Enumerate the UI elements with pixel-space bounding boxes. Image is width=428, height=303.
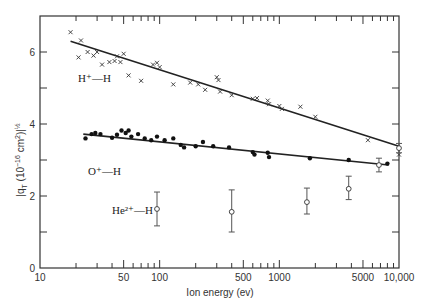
dot-marker [83,136,87,140]
x-tick-label: 500 [235,272,252,283]
dot-marker [227,145,231,149]
x-marker [218,90,222,94]
x-marker [95,50,99,54]
dot-marker [136,132,140,136]
dot-marker [126,128,130,132]
dot-marker [162,138,166,142]
x-marker [158,65,162,69]
x-marker [69,30,73,34]
dot-marker [182,145,186,149]
dot-marker [201,140,205,144]
x-marker [196,82,200,86]
x-marker [118,60,122,64]
open-circle-marker [155,207,160,212]
x-marker [100,63,104,67]
open-circle-marker [346,186,351,191]
x-tick-label: 1000 [268,272,291,283]
dot-marker [89,132,93,136]
x-marker [366,138,370,142]
open-circle-marker [397,146,402,151]
dot-marker [266,151,270,155]
x-axis-title: Ion energy (ev) [186,287,253,298]
dot-marker [149,138,153,142]
x-marker [122,52,126,56]
x-marker [79,38,83,42]
y-tick-label: 4 [29,119,35,130]
dot-marker [347,158,351,162]
x-tick-label: 10 [34,272,46,283]
dot-marker [98,132,102,136]
dot-marker [155,134,159,138]
fit-lines [71,41,399,165]
series-label-o: O⁺—H [88,165,121,177]
x-marker [230,93,234,97]
x-marker [86,50,90,54]
x-marker [203,88,207,92]
x-tick-label: 5000 [352,272,375,283]
open-circle-marker [377,163,382,168]
dot-marker [267,155,271,159]
x-marker [92,54,96,58]
axes-box [40,16,399,268]
x-marker [113,59,117,63]
x-marker [171,82,175,86]
dot-marker [119,128,123,132]
x-axis-ticks: 10501005001000500010,000 [34,16,414,283]
x-marker [151,63,155,67]
x-marker [139,79,143,83]
y-tick-label: 0 [29,263,35,274]
open-circle-marker [229,209,234,214]
x-tick-label: 50 [118,272,130,283]
open-circle-marker [305,200,310,205]
dot-marker [129,134,133,138]
x-marker [155,61,159,65]
chart: 10501005001000500010,000 0246 H⁺—H O⁺—H … [0,0,428,303]
series-label-he: He²⁺—H [112,204,153,216]
svg-text:|qT (10−16 cm2)|½: |qT (10−16 cm2)|½ [14,123,28,197]
plot-frame [40,16,399,268]
x-marker [107,60,111,64]
y-tick-label: 6 [29,47,35,58]
y-axis-title: |qT (10−16 cm2)|½ [14,123,28,197]
x-tick-label: 10,000 [384,272,415,283]
dot-marker [115,133,119,137]
x-marker [127,73,131,77]
y-tick-label: 2 [29,191,35,202]
fit-line [83,134,388,165]
dot-marker [211,144,215,148]
x-marker [77,55,81,59]
x-marker [298,105,302,109]
x-tick-label: 100 [151,272,168,283]
x-marker [266,99,270,103]
dot-marker [308,156,312,160]
dot-marker [171,136,175,140]
x-marker [313,115,317,119]
dot-marker [110,135,114,139]
dot-marker [385,161,389,165]
series-label-h: H⁺—H [78,72,111,84]
dot-marker [252,152,256,156]
dot-marker [143,136,147,140]
dot-marker [193,144,197,148]
x-marker [188,81,192,85]
dot-marker [93,131,97,135]
x-marker [255,96,259,100]
